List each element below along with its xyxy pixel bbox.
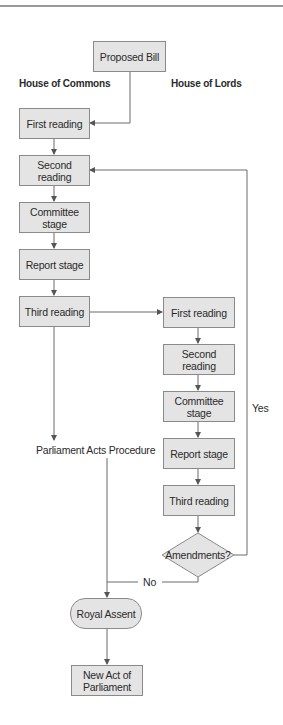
new-act-line2: Parliament [83, 681, 131, 693]
yes-label: Yes [252, 402, 269, 414]
lords-heading: House of Lords [171, 78, 242, 89]
commons-heading: House of Commons [19, 78, 110, 89]
step-label: First reading [171, 307, 227, 319]
commons-committee-stage-box: Committee stage [19, 202, 90, 233]
step-label: Second reading [164, 348, 234, 372]
commons-report-stage-box: Report stage [19, 249, 90, 280]
commons-first-reading-box: First reading [19, 108, 90, 139]
new-act-box: New Act of Parliament [71, 665, 143, 696]
lords-report-stage-box: Report stage [163, 438, 235, 469]
proposed-bill-label: Proposed Bill [100, 51, 159, 63]
new-act-line1: New Act of [83, 669, 131, 681]
commons-third-reading-box: Third reading [19, 296, 90, 327]
decision-label: Amendments? [162, 549, 234, 561]
lords-third-reading-box: Third reading [163, 485, 235, 516]
step-label: Second reading [20, 159, 89, 183]
step-label: Third reading [169, 495, 228, 507]
step-label: First reading [27, 118, 83, 130]
no-label: No [143, 576, 156, 588]
parliament-acts-label: Parliament Acts Procedure [36, 444, 155, 456]
proposed-bill-box: Proposed Bill [93, 41, 166, 72]
lords-first-reading-box: First reading [163, 297, 235, 328]
step-label: Report stage [26, 259, 84, 271]
step-label: Report stage [170, 448, 228, 460]
lords-committee-stage-box: Committee stage [163, 391, 235, 422]
step-label: Committee stage [164, 395, 234, 419]
royal-assent-box: Royal Assent [70, 598, 142, 629]
step-label: Third reading [25, 306, 84, 318]
lords-second-reading-box: Second reading [163, 344, 235, 375]
step-label: Committee stage [20, 206, 89, 230]
commons-second-reading-box: Second reading [19, 155, 90, 186]
royal-assent-label: Royal Assent [77, 608, 136, 620]
